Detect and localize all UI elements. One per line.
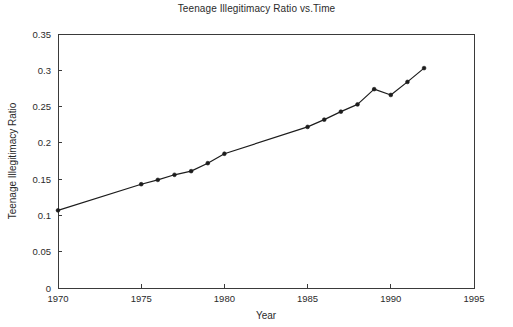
y-axis-ticks xyxy=(58,34,62,288)
data-point-marker xyxy=(223,152,227,156)
data-point-marker xyxy=(139,182,143,186)
data-point-marker xyxy=(406,80,410,84)
data-series-markers xyxy=(56,66,426,212)
x-tick-label: 1980 xyxy=(214,293,235,304)
y-tick-label: 0 xyxy=(46,283,51,294)
chart-figure: Teenage Illegitimacy Ratio vs.Time 19701… xyxy=(0,0,513,327)
x-axis-title: Year xyxy=(256,310,277,321)
data-point-marker xyxy=(422,66,426,70)
data-point-marker xyxy=(356,102,360,106)
line-chart-plot: 197019751980198519901995 00.050.10.150.2… xyxy=(0,0,513,327)
data-point-marker xyxy=(372,87,376,91)
data-point-marker xyxy=(189,169,193,173)
data-point-marker xyxy=(339,110,343,114)
plot-frame xyxy=(58,34,474,288)
data-point-marker xyxy=(389,93,393,97)
data-point-marker xyxy=(173,173,177,177)
y-axis-title: Teenage Illegitimacy Ratio xyxy=(7,102,18,219)
data-point-marker xyxy=(156,178,160,182)
data-series-line xyxy=(58,68,424,210)
y-tick-label: 0.35 xyxy=(33,29,52,40)
x-tick-label: 1985 xyxy=(297,293,318,304)
y-tick-label: 0.05 xyxy=(33,246,52,257)
y-tick-label: 0.2 xyxy=(38,137,51,148)
data-point-marker xyxy=(322,118,326,122)
x-tick-label: 1990 xyxy=(380,293,401,304)
data-point-marker xyxy=(56,208,60,212)
y-tick-label: 0.3 xyxy=(38,65,51,76)
axes-frame xyxy=(58,34,474,288)
data-point-marker xyxy=(306,125,310,129)
y-tick-label: 0.1 xyxy=(38,210,51,221)
y-tick-label: 0.15 xyxy=(33,174,52,185)
x-tick-label: 1995 xyxy=(463,293,484,304)
data-point-marker xyxy=(206,161,210,165)
x-axis-ticks xyxy=(58,284,474,288)
x-axis-tick-labels: 197019751980198519901995 xyxy=(47,293,484,304)
x-tick-label: 1970 xyxy=(47,293,68,304)
y-tick-label: 0.25 xyxy=(33,101,52,112)
y-axis-tick-labels: 00.050.10.150.20.250.30.35 xyxy=(33,29,52,294)
x-tick-label: 1975 xyxy=(131,293,152,304)
